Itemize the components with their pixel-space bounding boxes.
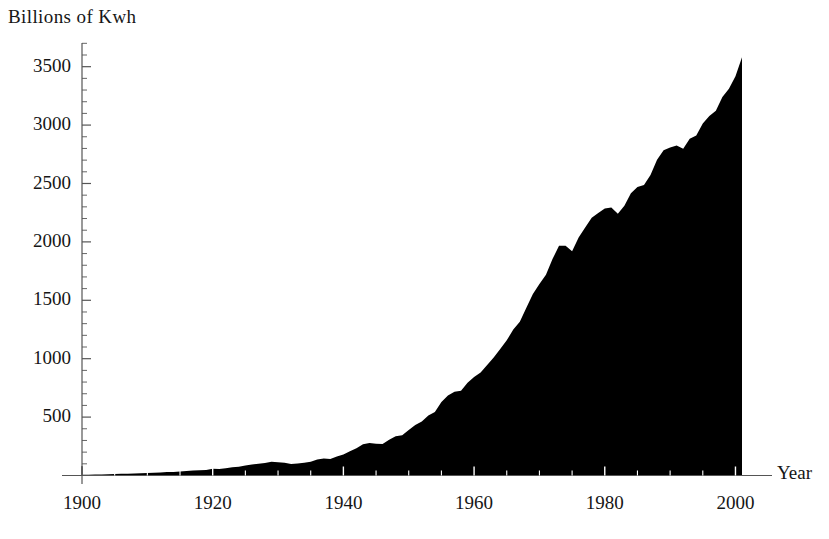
y-axis-tick-label: 3000 bbox=[0, 113, 71, 135]
x-axis-tick-label: 2000 bbox=[676, 492, 796, 514]
y-axis-tick-label: 3500 bbox=[0, 55, 71, 77]
x-axis-tick-label: 1900 bbox=[22, 492, 142, 514]
x-axis-tick-label: 1920 bbox=[153, 492, 273, 514]
y-axis-tick-label: 1500 bbox=[0, 288, 71, 310]
y-axis-ticks bbox=[82, 43, 91, 464]
y-axis-tick-label: 2500 bbox=[0, 172, 71, 194]
chart-figure: Billions of Kwh Year 5001000150020002500… bbox=[0, 0, 829, 539]
y-axis-tick-label: 2000 bbox=[0, 230, 71, 252]
y-axis-tick-label: 1000 bbox=[0, 347, 71, 369]
x-axis-tick-label: 1940 bbox=[283, 492, 403, 514]
area-series bbox=[82, 57, 742, 475]
x-axis-tick-label: 1980 bbox=[545, 492, 665, 514]
x-axis-tick-label: 1960 bbox=[414, 492, 534, 514]
y-axis-tick-label: 500 bbox=[0, 405, 71, 427]
electricity-generation-area bbox=[82, 57, 742, 475]
area-chart-plot bbox=[0, 0, 829, 539]
